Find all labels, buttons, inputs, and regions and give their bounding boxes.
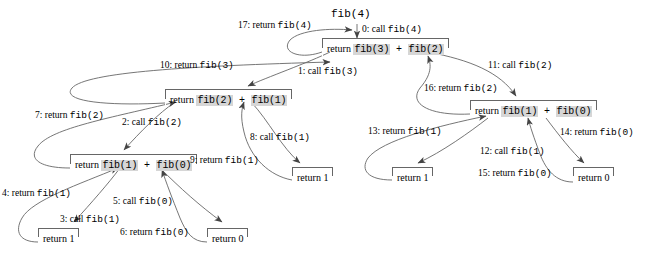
node-fib2-right-body[interactable]: return fib(1) + fib(0): [470, 100, 597, 118]
edge-label-prefix: 17: return: [238, 20, 278, 30]
edge-label-6-return-fib0: 6: return fib(0): [120, 227, 189, 238]
node-fib4-call-a[interactable]: fib(3): [353, 44, 390, 55]
leaf-label: return 1: [43, 233, 74, 244]
node-fib4-op: +: [390, 44, 407, 55]
edge-label-code: fib(2): [70, 110, 104, 121]
edge-label-15-return-fib0: 15: return fib(0): [478, 168, 552, 179]
leaf-node-return-1-a[interactable]: return 1: [38, 228, 79, 245]
node-fib4-return-kw: return: [327, 43, 353, 54]
edge-label-code: fib(1): [86, 214, 120, 225]
edge-label-code: fib(3): [324, 66, 358, 77]
node-fib2-left-call-a[interactable]: fib(1): [101, 160, 138, 171]
edge-label-11-call-fib2: 11: call fib(2): [488, 60, 552, 71]
node-fib3-op: +: [233, 95, 250, 106]
node-fib2-left-op: +: [138, 160, 155, 171]
edge-label-prefix: 1: call: [298, 66, 324, 76]
node-fib2-right-op: +: [538, 106, 555, 117]
node-fib2-left-call-b[interactable]: fib(0): [156, 160, 193, 171]
edge-label-prefix: 8: call: [250, 132, 276, 142]
edge-label-prefix: 13: return: [368, 126, 408, 136]
edge-label-code: fib(2): [518, 60, 552, 71]
node-fib3-body[interactable]: return fib(2) + fib(1): [165, 89, 292, 107]
edge-label-code: fib(0): [155, 227, 189, 238]
recursion-tree-diagram: fib(4) return fib(3) + fib(2) return fib…: [0, 0, 649, 257]
leaf-node-return-1-b[interactable]: return 1: [292, 167, 333, 184]
edge-label-13-return-fib1: 13: return fib(1): [368, 126, 442, 137]
edge-label-0-call-fib4: 0: call fib(4): [362, 24, 422, 35]
leaf-label: return 0: [578, 172, 609, 183]
leaf-node-return-0-b[interactable]: return 0: [573, 167, 614, 184]
edge-label-prefix: 3: call: [60, 214, 86, 224]
node-fib3-call-a[interactable]: fib(2): [196, 95, 233, 106]
edge-label-code: fib(0): [139, 196, 173, 207]
edge-label-7-return-fib2: 7: return fib(2): [35, 110, 104, 121]
edge-label-2-call-fib2: 2: call fib(2): [122, 117, 182, 128]
edge-label-code: fib(2): [464, 83, 498, 94]
edge-label-prefix: 2: call: [122, 117, 148, 127]
edge-label-prefix: 16: return: [424, 83, 464, 93]
node-fib2-right-call-a[interactable]: fib(1): [501, 106, 538, 117]
edge-label-code: fib(0): [600, 127, 634, 138]
leaf-label: return 0: [212, 233, 243, 244]
arrow-call-fib0-right: [546, 118, 584, 163]
edge-label-prefix: 14: return: [560, 127, 600, 137]
edge-label-code: fib(1): [408, 126, 442, 137]
edge-label-code: fib(3): [200, 60, 234, 71]
edge-label-5-call-fib0: 5: call fib(0): [113, 196, 173, 207]
edge-label-code: fib(1): [276, 132, 310, 143]
edge-label-code: fib(1): [37, 188, 71, 199]
edge-label-prefix: 12: call: [480, 146, 511, 156]
edge-label-code: fib(4): [278, 20, 312, 31]
edge-label-prefix: 7: return: [35, 110, 70, 120]
edge-label-14-return-fib0: 14: return fib(0): [560, 127, 634, 138]
edge-label-3-call-fib1: 3: call fib(1): [60, 214, 120, 225]
edge-label-code: fib(0): [518, 168, 552, 179]
edge-label-prefix: 0: call: [362, 24, 388, 34]
node-fib3-return-kw: return: [170, 94, 196, 105]
edge-label-prefix: 11: call: [488, 60, 518, 70]
node-fib4-call-b[interactable]: fib(2): [408, 44, 445, 55]
edge-label-code: fib(4): [388, 24, 422, 35]
node-fib2-left-return-kw: return: [75, 159, 101, 170]
arrow-call-fib0-left: [160, 168, 222, 222]
edge-label-8-call-fib1: 8: call fib(1): [250, 132, 310, 143]
edge-label-9-return-fib1: 9: return fib(1): [190, 155, 259, 166]
leaf-node-return-0-a[interactable]: return 0: [207, 228, 248, 245]
edge-label-1-call-fib3: 1: call fib(3): [298, 66, 358, 77]
arrow-call-fib1-right: [418, 118, 488, 163]
edge-label-code: fib(1): [225, 155, 259, 166]
edge-label-prefix: 4: return: [2, 188, 37, 198]
edge-label-prefix: 9: return: [190, 155, 225, 165]
leaf-label: return 1: [397, 172, 428, 183]
edge-label-16-return-fib2: 16: return fib(2): [424, 83, 498, 94]
edge-label-17-return-fib4: 17: return fib(4): [238, 20, 312, 31]
edge-label-12-call-fib1: 12: call fib(1): [480, 146, 545, 157]
node-fib4-body[interactable]: return fib(3) + fib(2): [322, 38, 449, 56]
leaf-node-return-1-c[interactable]: return 1: [392, 167, 433, 184]
node-fib3-call-b[interactable]: fib(1): [251, 95, 288, 106]
edge-label-code: fib(1): [511, 146, 545, 157]
edge-label-prefix: 15: return: [478, 168, 518, 178]
edge-label-prefix: 10: return: [160, 60, 200, 70]
node-fib2-left-body[interactable]: return fib(1) + fib(0): [70, 154, 197, 172]
edge-label-code: fib(2): [148, 117, 182, 128]
root-call-label: fib(4): [331, 8, 371, 20]
node-fib2-right-call-b[interactable]: fib(0): [556, 106, 593, 117]
node-fib2-right-return-kw: return: [475, 105, 501, 116]
edge-label-4-return-fib1: 4: return fib(1): [2, 188, 71, 199]
edge-label-prefix: 6: return: [120, 227, 155, 237]
edge-label-10-return-fib3: 10: return fib(3): [160, 60, 234, 71]
leaf-label: return 1: [297, 172, 328, 183]
edge-label-prefix: 5: call: [113, 196, 139, 206]
